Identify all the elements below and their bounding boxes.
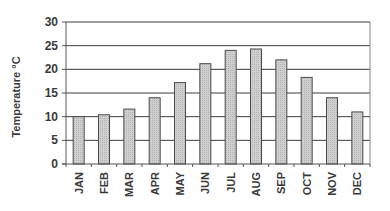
bar-nov (327, 98, 338, 164)
x-tick-label: DEC (351, 172, 363, 195)
y-tick-label: 30 (45, 15, 59, 29)
bar-oct (301, 77, 312, 164)
bar-jul (225, 50, 236, 164)
bar-aug (251, 49, 262, 164)
y-axis-ticks: 051015202530 (45, 15, 66, 171)
gridlines (66, 22, 370, 164)
y-tick-label: 0 (51, 157, 58, 171)
bar-jun (200, 64, 211, 164)
x-tick-label: FEB (98, 172, 110, 194)
bar-sep (276, 60, 287, 164)
x-tick-label: APR (149, 172, 161, 195)
temperature-bar-chart: 051015202530 JANFEBMARAPRMAYJUNJULAUGSEP… (0, 0, 390, 211)
y-tick-label: 5 (51, 133, 58, 147)
x-tick-label: JUL (225, 172, 237, 193)
x-tick-label: JUN (199, 172, 211, 194)
x-tick-label: MAY (174, 171, 186, 195)
y-tick-label: 15 (45, 86, 59, 100)
x-tick-label: MAR (123, 172, 135, 197)
bars (73, 49, 363, 164)
bar-may (175, 83, 186, 164)
bar-dec (352, 112, 363, 164)
bar-apr (149, 98, 160, 164)
y-tick-label: 20 (45, 62, 59, 76)
x-tick-label: JAN (73, 172, 85, 194)
bar-jan (73, 117, 84, 164)
x-tick-label: OCT (301, 172, 313, 196)
y-tick-label: 25 (45, 39, 59, 53)
bar-feb (99, 115, 110, 164)
x-tick-label: AUG (250, 172, 262, 196)
x-axis-labels: JANFEBMARAPRMAYJUNJULAUGSEPOCTNOVDEC (73, 164, 370, 197)
y-tick-label: 10 (45, 110, 59, 124)
x-tick-label: NOV (326, 171, 338, 196)
bar-mar (124, 109, 135, 164)
x-tick-label: SEP (275, 172, 287, 194)
y-axis-title: Temperature °C (10, 56, 22, 137)
